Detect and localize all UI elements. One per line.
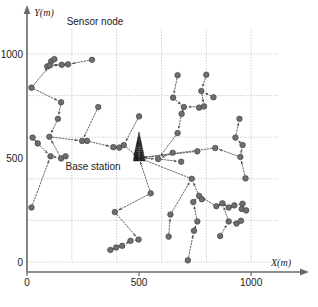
sensor-node — [195, 219, 201, 225]
y-tick-label: 500 — [6, 153, 23, 164]
x-tick-label: 0 — [24, 277, 30, 288]
sensor-node — [175, 72, 181, 78]
sensor-node — [65, 62, 71, 68]
sensor-node — [95, 104, 101, 110]
sensor-node — [175, 130, 181, 136]
network-link — [194, 183, 198, 193]
sensor-node — [179, 111, 185, 117]
sensor-node — [212, 145, 218, 151]
network-link — [241, 150, 242, 154]
network-link — [140, 162, 149, 190]
sensor-node — [128, 238, 134, 244]
network-link — [169, 219, 170, 233]
sensor-node — [203, 72, 209, 78]
sensor-node — [178, 159, 184, 165]
network-link — [161, 159, 176, 161]
network-link — [52, 141, 60, 156]
y-axis-label: Y(m) — [34, 7, 54, 19]
base-station-marker — [133, 132, 144, 161]
base-station-annotation: Base station — [65, 161, 120, 172]
sensor-node — [166, 234, 172, 240]
x-tick-label: 500 — [131, 277, 148, 288]
sensor-node — [58, 99, 64, 105]
network-link — [202, 94, 203, 102]
sensor-node — [191, 228, 197, 234]
network-link — [73, 60, 89, 63]
sensor-node — [63, 154, 69, 160]
scatter-plot-canvas: 0500100005001000 X(m) Y(m) Sensor node B… — [0, 0, 318, 307]
sensor-node — [148, 191, 154, 197]
network-link — [220, 150, 238, 156]
sensor-node — [220, 201, 226, 207]
sensor-node — [170, 150, 176, 156]
network-link — [40, 146, 47, 153]
sensor-node — [121, 142, 127, 148]
sensor-node — [238, 154, 244, 160]
network-link — [126, 119, 137, 141]
sensor-node — [35, 141, 41, 147]
sensor-node — [185, 258, 191, 264]
sensor-node — [112, 209, 118, 215]
sensor-node — [240, 142, 246, 148]
network-link — [51, 122, 56, 133]
sensor-node — [238, 218, 244, 224]
network-link — [35, 89, 57, 100]
sensor-node — [168, 212, 174, 218]
sensor-node — [214, 203, 220, 209]
sensor-node — [170, 95, 176, 101]
sensor-node — [195, 149, 201, 155]
network-link — [33, 161, 49, 205]
sensor-node — [47, 63, 53, 69]
sensor-node — [84, 138, 90, 144]
network-link — [54, 157, 57, 158]
sensor-node — [243, 176, 249, 182]
sensor-node — [136, 237, 142, 243]
y-tick-label: 1000 — [1, 49, 24, 60]
network-link — [90, 142, 108, 146]
sensor-node — [199, 196, 205, 202]
sensor-node — [29, 85, 35, 91]
sensor-node — [110, 144, 116, 150]
network-link — [236, 123, 238, 134]
network-link — [53, 137, 78, 140]
network-link — [84, 110, 97, 137]
x-axis-label: X(m) — [270, 257, 292, 269]
sensor-node — [217, 233, 223, 239]
network-link — [241, 161, 244, 175]
sensor-node — [155, 156, 161, 162]
network-link — [172, 183, 189, 212]
network-link — [195, 226, 196, 228]
sensor-node — [52, 56, 58, 62]
sensor-node — [243, 208, 249, 214]
sensor-node — [48, 154, 54, 160]
network-link — [194, 207, 196, 219]
network-link — [174, 79, 177, 94]
sensor-node — [55, 116, 61, 122]
network-link — [119, 195, 148, 210]
axis-ticks: 0500100005001000 — [1, 49, 263, 288]
sensor-node — [136, 114, 142, 120]
sensor-node — [113, 245, 119, 251]
network-link — [239, 141, 241, 143]
sensor-network-figure: 0500100005001000 X(m) Y(m) Sensor node B… — [0, 0, 318, 307]
sensor-node — [240, 201, 246, 207]
sensor-node — [181, 104, 187, 110]
sensor-node — [201, 104, 207, 110]
sensor-node — [30, 135, 36, 141]
y-tick-label: 0 — [17, 257, 23, 268]
y-axis-arrowhead — [24, 5, 31, 14]
network-link — [144, 152, 194, 158]
network-link — [117, 215, 136, 236]
network-link — [189, 235, 193, 257]
sensor-node — [211, 94, 217, 100]
sensor-node — [119, 243, 125, 249]
network-link — [203, 78, 206, 87]
sensor-node — [199, 88, 205, 94]
network-link — [59, 106, 61, 115]
sensor-node — [89, 57, 95, 63]
network-link — [126, 243, 127, 244]
network-link — [126, 147, 135, 155]
network-link — [34, 69, 47, 85]
sensor-node — [226, 205, 232, 211]
sensor-node — [231, 203, 237, 209]
